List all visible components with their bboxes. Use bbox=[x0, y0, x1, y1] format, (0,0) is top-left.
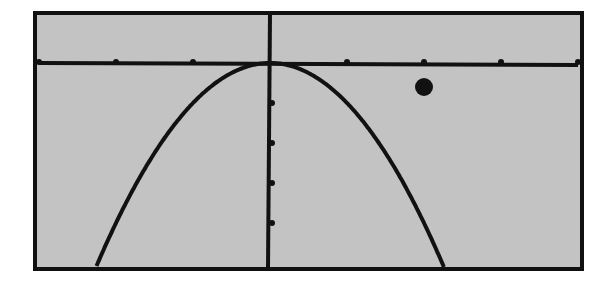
x-tick bbox=[113, 59, 119, 65]
x-tick bbox=[421, 59, 427, 65]
graph-window bbox=[35, 13, 582, 269]
plotted-point bbox=[415, 78, 433, 96]
y-tick bbox=[269, 220, 275, 226]
x-tick bbox=[498, 59, 504, 65]
calculator-graph-screen bbox=[0, 0, 601, 286]
y-axis bbox=[268, 13, 270, 269]
plotted-points bbox=[415, 78, 433, 96]
x-tick bbox=[190, 59, 196, 65]
x-tick bbox=[36, 59, 42, 65]
y-tick bbox=[269, 180, 275, 186]
x-tick bbox=[575, 59, 581, 65]
y-tick bbox=[269, 140, 275, 146]
x-tick bbox=[344, 59, 350, 65]
y-tick bbox=[269, 100, 275, 106]
x-axis bbox=[39, 63, 578, 65]
